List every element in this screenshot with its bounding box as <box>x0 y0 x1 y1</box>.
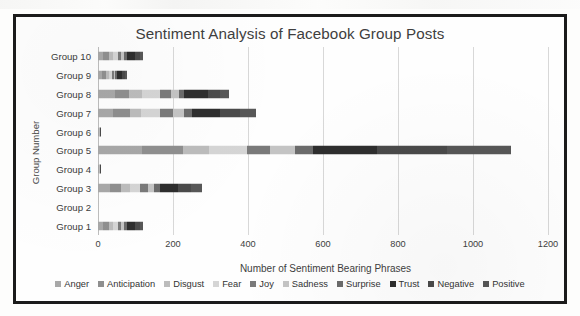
stacked-bar[interactable] <box>98 183 202 192</box>
bar-segment-negative[interactable] <box>377 146 447 155</box>
bar-segment-anticipation[interactable] <box>113 108 130 117</box>
legend-item-trust[interactable]: Trust <box>390 279 420 289</box>
x-tick-label: 200 <box>165 239 180 249</box>
bar-segment-negative[interactable] <box>178 183 192 192</box>
chart-canvas: Sentiment Analysis of Facebook Group Pos… <box>16 17 564 301</box>
bar-segment-positive[interactable] <box>240 108 256 117</box>
legend-label: Sadness <box>292 279 328 289</box>
x-tick-label: 1000 <box>463 239 483 249</box>
chart-legend: AngerAnticipationDisgustFearJoySadnessSu… <box>16 279 564 289</box>
bar-row: Group 5 <box>98 141 548 160</box>
bar-segment-anger[interactable] <box>98 89 115 98</box>
bar-segment-sadness[interactable] <box>173 108 184 117</box>
bar-segment-anticipation[interactable] <box>110 183 121 192</box>
bar-segment-negative[interactable] <box>220 108 240 117</box>
bar-segment-positive[interactable] <box>447 146 511 155</box>
bar-segment-positive[interactable] <box>220 89 229 98</box>
bar-segment-joy[interactable] <box>160 108 173 117</box>
legend-item-anticipation[interactable]: Anticipation <box>98 279 155 289</box>
bar-segment-fear[interactable] <box>142 89 160 98</box>
stacked-bar[interactable] <box>98 71 127 80</box>
y-tick-label: Group 5 <box>56 145 91 156</box>
bar-segment-anger[interactable] <box>98 183 110 192</box>
bar-segment-anticipation[interactable] <box>115 89 129 98</box>
bar-segment-disgust[interactable] <box>130 108 141 117</box>
legend-label: Joy <box>259 279 273 289</box>
stacked-bar[interactable] <box>98 108 256 117</box>
legend-item-negative[interactable]: Negative <box>428 279 474 289</box>
y-tick-label: Group 2 <box>56 201 91 212</box>
y-tick-label: Group 6 <box>56 126 91 137</box>
stacked-bar[interactable] <box>98 127 101 136</box>
bar-segment-positive[interactable] <box>125 71 127 80</box>
bar-segment-surprise[interactable] <box>295 146 313 155</box>
stacked-bar[interactable] <box>98 52 143 61</box>
bar-segment-trust[interactable] <box>160 183 178 192</box>
bar-segment-trust[interactable] <box>127 52 135 61</box>
legend-swatch-icon <box>428 281 434 287</box>
legend-swatch-icon <box>483 281 489 287</box>
legend-item-joy[interactable]: Joy <box>250 279 273 289</box>
y-tick-label: Group 10 <box>51 51 91 62</box>
bar-segment-disgust[interactable] <box>183 146 209 155</box>
x-tick-label: 800 <box>390 239 405 249</box>
legend-swatch-icon <box>390 281 396 287</box>
bar-row: Group 9 <box>98 66 548 85</box>
y-tick-label: Group 7 <box>56 107 91 118</box>
bar-row: Group 6 <box>98 122 548 141</box>
x-tick-label: 1200 <box>538 239 558 249</box>
bar-segment-sadness[interactable] <box>171 89 179 98</box>
bar-segment-fear[interactable] <box>209 146 247 155</box>
x-tick-label: 0 <box>95 239 100 249</box>
chart-frame: Sentiment Analysis of Facebook Group Pos… <box>13 14 567 304</box>
bar-segment-surprise[interactable] <box>184 108 192 117</box>
bar-segment-trust[interactable] <box>184 89 207 98</box>
stacked-bar[interactable] <box>98 221 143 230</box>
bar-segment-joy[interactable] <box>247 146 270 155</box>
bar-segment-disgust[interactable] <box>129 89 142 98</box>
bar-segment-fear[interactable] <box>130 183 140 192</box>
bar-segment-sadness[interactable] <box>270 146 295 155</box>
legend-item-surprise[interactable]: Surprise <box>337 279 381 289</box>
bar-segment-positive[interactable] <box>191 183 202 192</box>
bar-segment-disgust[interactable] <box>121 183 130 192</box>
stacked-bar[interactable] <box>98 146 511 155</box>
legend-label: Surprise <box>346 279 381 289</box>
legend-swatch-icon <box>55 281 61 287</box>
legend-label: Fear <box>222 279 241 289</box>
bar-segment-joy[interactable] <box>140 183 148 192</box>
stacked-bar[interactable] <box>98 165 101 174</box>
bar-segment-trust[interactable] <box>313 146 378 155</box>
legend-item-disgust[interactable]: Disgust <box>164 279 204 289</box>
legend-label: Negative <box>437 279 474 289</box>
legend-swatch-icon <box>98 281 104 287</box>
bar-segment-anger[interactable] <box>98 108 113 117</box>
legend-item-sadness[interactable]: Sadness <box>283 279 328 289</box>
legend-swatch-icon <box>164 281 170 287</box>
bar-row: Group 2 <box>98 197 548 216</box>
bar-segment-trust[interactable] <box>192 108 220 117</box>
bar-segment-joy[interactable] <box>160 89 171 98</box>
legend-swatch-icon <box>283 281 289 287</box>
x-axis-title: Number of Sentiment Bearing Phrases <box>98 263 553 274</box>
bar-segment-fear[interactable] <box>141 108 161 117</box>
bar-segment-anger[interactable] <box>98 146 142 155</box>
stacked-bar[interactable] <box>98 89 229 98</box>
bar-segment-trust[interactable] <box>127 221 135 230</box>
y-tick-label: Group 4 <box>56 164 91 175</box>
bar-row: Group 1 <box>98 216 548 235</box>
y-tick-label: Group 1 <box>56 220 91 231</box>
x-tick-label: 600 <box>315 239 330 249</box>
bar-segment-sadness[interactable] <box>148 183 155 192</box>
bar-segment-positive[interactable] <box>140 52 143 61</box>
bar-segment-positive[interactable] <box>140 221 143 230</box>
bar-segment-anticipation[interactable] <box>142 146 183 155</box>
bar-row: Group 7 <box>98 103 548 122</box>
chart-title: Sentiment Analysis of Facebook Group Pos… <box>16 25 564 42</box>
bar-row: Group 4 <box>98 160 548 179</box>
legend-item-anger[interactable]: Anger <box>55 279 89 289</box>
legend-item-positive[interactable]: Positive <box>483 279 525 289</box>
legend-item-fear[interactable]: Fear <box>213 279 241 289</box>
bar-segment-negative[interactable] <box>208 89 221 98</box>
bar-row: Group 3 <box>98 179 548 198</box>
